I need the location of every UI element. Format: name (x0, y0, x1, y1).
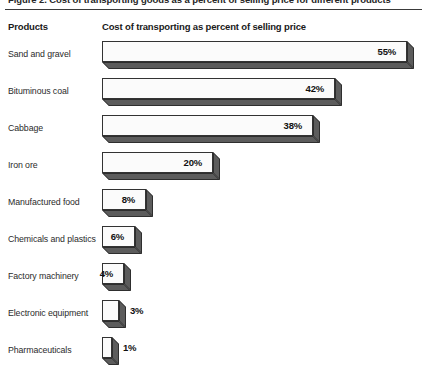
row-label-electronic-equipment: Electronic equipment (8, 308, 88, 318)
bar-factory-machinery: 4% (102, 263, 124, 291)
bar-value-label: 1% (123, 342, 136, 353)
row-label-manufactured-food: Manufactured food (8, 197, 80, 207)
row-label-pharmaceuticals: Pharmaceuticals (8, 345, 72, 355)
bar-bottom-face (102, 136, 320, 143)
bar-front-face (102, 115, 313, 136)
bar-bottom-face (102, 210, 153, 217)
bar-front-face (102, 78, 335, 99)
table-row: Sand and gravel55% (0, 38, 427, 75)
table-row: Electronic equipment3% (0, 297, 427, 334)
figure-title-clipped: Figure 2. Cost of transporting goods as … (0, 0, 427, 9)
bar-value-label: 55% (378, 46, 396, 57)
row-label-chemicals-and-plastics: Chemicals and plastics (8, 234, 96, 244)
bar-value-label: 4% (100, 268, 113, 279)
row-label-sand-and-gravel: Sand and gravel (8, 49, 71, 59)
row-label-factory-machinery: Factory machinery (8, 271, 79, 281)
bar-bottom-face (102, 99, 342, 106)
column-header-products: Products (8, 21, 48, 32)
bar-value-label: 6% (111, 231, 124, 242)
transport-cost-chart: Figure 2. Cost of transporting goods as … (0, 0, 427, 381)
bar-iron-ore: 20% (102, 152, 213, 180)
table-row: Bituminous coal42% (0, 75, 427, 112)
row-label-iron-ore: Iron ore (8, 160, 38, 170)
figure-title-text: Figure 2. Cost of transporting goods as … (8, 0, 391, 5)
bar-sand-and-gravel: 55% (102, 41, 407, 69)
bar-front-face (102, 300, 119, 321)
bar-value-label: 20% (184, 157, 202, 168)
bar-cabbage: 38% (102, 115, 313, 143)
bar-bottom-face (102, 62, 414, 69)
table-row: Factory machinery4% (0, 260, 427, 297)
bar-pharmaceuticals: 1% (102, 337, 112, 365)
bar-value-label: 42% (306, 83, 324, 94)
table-row: Iron ore20% (0, 149, 427, 186)
table-row: Pharmaceuticals1% (0, 334, 427, 371)
row-label-bituminous-coal: Bituminous coal (8, 86, 69, 96)
bar-value-label: 3% (130, 305, 143, 316)
bar-bituminous-coal: 42% (102, 78, 335, 106)
bar-bottom-face (102, 173, 220, 180)
bar-chemicals-and-plastics: 6% (102, 226, 135, 254)
bar-electronic-equipment: 3% (102, 300, 119, 328)
header-divider-rule (5, 9, 422, 10)
bar-front-face (102, 41, 407, 62)
bar-front-face (102, 337, 112, 358)
bar-value-label: 8% (122, 194, 135, 205)
bar-manufactured-food: 8% (102, 189, 146, 217)
column-header-measure: Cost of transporting as percent of selli… (102, 21, 306, 32)
table-row: Chemicals and plastics6% (0, 223, 427, 260)
row-label-cabbage: Cabbage (8, 123, 43, 133)
table-row: Manufactured food8% (0, 186, 427, 223)
bar-value-label: 38% (284, 120, 302, 131)
table-row: Cabbage38% (0, 112, 427, 149)
